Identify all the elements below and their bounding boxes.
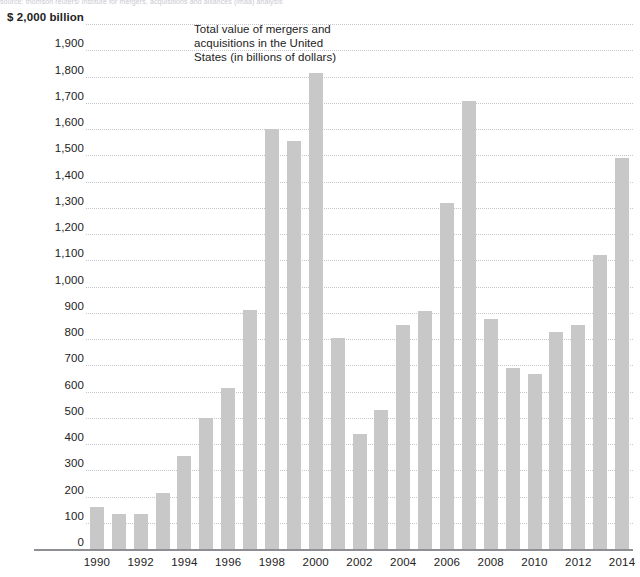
y-axis-tick-label: 1,400 bbox=[0, 169, 84, 181]
y-axis-tick-label: 0 bbox=[0, 536, 84, 548]
bar-2013 bbox=[593, 255, 607, 549]
bar-2007 bbox=[462, 101, 476, 549]
bar-1995 bbox=[199, 418, 213, 549]
bar-2008 bbox=[484, 319, 498, 549]
y-axis-tick-label: 1,900 bbox=[0, 37, 84, 49]
y-axis-tick-label: 400 bbox=[0, 431, 84, 443]
y-axis-labels: 01002003004005006007008009001,0001,1001,… bbox=[0, 24, 84, 549]
bar-2014 bbox=[615, 158, 629, 549]
y-axis-tick-label: 1,600 bbox=[0, 116, 84, 128]
bar-1998 bbox=[265, 129, 279, 549]
x-axis-tick-label: 1994 bbox=[159, 555, 209, 569]
y-axis-tick-label: 700 bbox=[0, 352, 84, 364]
bar-2004 bbox=[396, 325, 410, 549]
source-note: source: thomson reuters/ institute for m… bbox=[0, 0, 633, 9]
x-axis-labels: 1990199219941996199820002002200420062008… bbox=[86, 555, 633, 575]
bar-2009 bbox=[506, 368, 520, 549]
bar-chart: 01002003004005006007008009001,0001,1001,… bbox=[0, 9, 633, 577]
bar-1999 bbox=[287, 141, 301, 549]
bar-1996 bbox=[221, 388, 235, 549]
bar-1993 bbox=[156, 493, 170, 549]
y-axis-tick-label: 100 bbox=[0, 510, 84, 522]
y-axis-tick-label: 1,500 bbox=[0, 142, 84, 154]
bar-1990 bbox=[90, 507, 104, 549]
bar-2006 bbox=[440, 203, 454, 550]
bar-series bbox=[86, 24, 633, 549]
bar-1994 bbox=[177, 456, 191, 549]
y-axis-tick-label: 200 bbox=[0, 484, 84, 496]
x-axis-tick-label: 1996 bbox=[203, 555, 253, 569]
bar-2001 bbox=[331, 338, 345, 549]
y-axis-tick-label: 900 bbox=[0, 300, 84, 312]
y-axis-tick-label: 800 bbox=[0, 326, 84, 338]
source-note-text: source: thomson reuters/ institute for m… bbox=[0, 0, 633, 6]
bar-2005 bbox=[418, 311, 432, 549]
y-axis-tick-label: 1,000 bbox=[0, 274, 84, 286]
x-axis-tick-label: 1998 bbox=[247, 555, 297, 569]
y-axis-tick-label: 1,800 bbox=[0, 64, 84, 76]
bar-2002 bbox=[353, 434, 367, 550]
x-axis-tick-label: 1992 bbox=[116, 555, 166, 569]
bar-1997 bbox=[243, 310, 257, 549]
y-axis-tick-label: 1,300 bbox=[0, 195, 84, 207]
y-axis-tick-label: $ 2,000 billion bbox=[0, 11, 84, 23]
x-axis-tick-label: 2002 bbox=[335, 555, 385, 569]
x-axis-tick-label: 2006 bbox=[422, 555, 472, 569]
x-axis-tick-label: 2012 bbox=[553, 555, 603, 569]
y-axis-tick-label: 1,700 bbox=[0, 90, 84, 102]
y-axis-tick-label: 600 bbox=[0, 379, 84, 391]
bar-2003 bbox=[374, 410, 388, 549]
x-axis-tick-label: 2004 bbox=[378, 555, 428, 569]
bar-1992 bbox=[134, 514, 148, 549]
y-axis-tick-label: 1,200 bbox=[0, 221, 84, 233]
chart-annotation: Total value of mergers and acquisitions … bbox=[194, 22, 356, 65]
bar-2000 bbox=[309, 73, 323, 549]
bar-2010 bbox=[528, 374, 542, 549]
x-axis-tick-label: 2008 bbox=[466, 555, 516, 569]
y-axis-tick-label: 300 bbox=[0, 457, 84, 469]
bar-2011 bbox=[549, 332, 563, 549]
x-axis-tick-label: 2014 bbox=[597, 555, 640, 569]
x-axis-tick-label: 1990 bbox=[72, 555, 122, 569]
x-axis-tick-label: 2000 bbox=[291, 555, 341, 569]
x-axis-baseline bbox=[34, 549, 633, 551]
bar-1991 bbox=[112, 514, 126, 549]
y-axis-tick-label: 500 bbox=[0, 405, 84, 417]
y-axis-tick-label: 1,100 bbox=[0, 247, 84, 259]
x-axis-tick-label: 2010 bbox=[510, 555, 560, 569]
bar-2012 bbox=[571, 325, 585, 549]
